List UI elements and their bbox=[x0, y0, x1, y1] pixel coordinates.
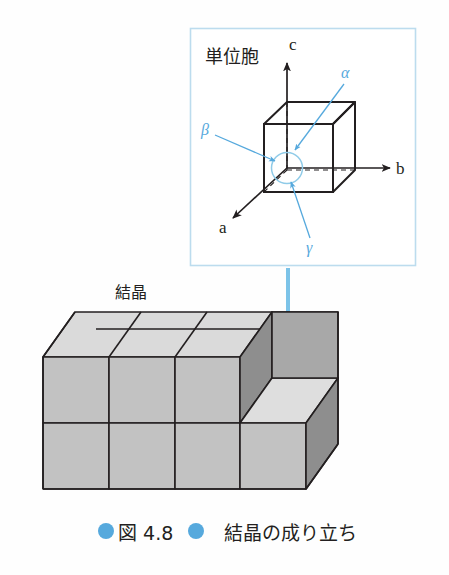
figure-page: 単位胞 c b a bbox=[0, 0, 449, 575]
angle-beta-label: β bbox=[200, 121, 209, 139]
caption-bullet-left-icon bbox=[98, 523, 114, 539]
axis-b-label: b bbox=[396, 159, 405, 178]
front-cube-r1c3 bbox=[175, 357, 240, 423]
crystal-title: 結晶 bbox=[115, 283, 147, 302]
front-cube-r2c1 bbox=[43, 423, 109, 489]
angle-alpha-label: α bbox=[341, 64, 350, 81]
front-cube-r1c1 bbox=[43, 357, 109, 423]
caption-title: 結晶の成り立ち bbox=[224, 522, 357, 544]
notch-back-wall bbox=[272, 312, 338, 378]
caption-bullet-right-icon bbox=[188, 523, 204, 539]
axis-a-label: a bbox=[219, 218, 227, 237]
crystal-block bbox=[43, 312, 370, 489]
front-cube-r2c3 bbox=[175, 423, 240, 489]
figure-canvas: 単位胞 c b a bbox=[0, 0, 449, 575]
axis-c-label: c bbox=[289, 35, 297, 54]
figure-caption: 図 4.8 結晶の成り立ち bbox=[98, 522, 357, 544]
unit-cell-inset: 単位胞 c b a bbox=[191, 29, 416, 266]
front-cube-r2c4 bbox=[240, 423, 306, 489]
front-cube-r1c2 bbox=[109, 357, 175, 423]
inset-title: 単位胞 bbox=[205, 46, 259, 67]
front-cube-r2c2 bbox=[109, 423, 175, 489]
caption-figure-number: 図 4.8 bbox=[118, 522, 173, 544]
angle-gamma-label: γ bbox=[306, 239, 313, 257]
